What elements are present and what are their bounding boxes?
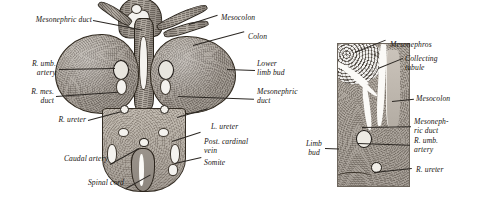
anatomical-plate: Mesonephric duct R. umb. artery R. mes. … (0, 0, 480, 203)
mesonephros-detail-panel (337, 43, 410, 187)
label-mesocolon: Mesocolon (221, 14, 255, 23)
label-lower-limb-bud: Lower limb bud (257, 60, 285, 77)
somite-right-lower (168, 164, 178, 176)
detail-r-umb-artery-lumen (356, 130, 372, 148)
label-colon: Colon (248, 33, 267, 42)
label-mesonephros: Mesonephros (390, 41, 432, 50)
label-mesonephric-duct-detail: Mesoneph- ric duct (414, 118, 449, 135)
label-r-umb-artery-detail: R. umb. artery (414, 137, 438, 154)
post-cardinal-vein-right (158, 128, 169, 137)
label-r-umb-artery: R. umb. artery (2, 60, 56, 77)
label-l-ureter: L. ureter (211, 123, 238, 132)
l-umb-artery-lumen (158, 60, 174, 80)
label-spinal-cord: Spinal cord (40, 179, 124, 188)
label-r-mes-duct: R. mes. duct (2, 88, 54, 105)
midline-lumen (139, 36, 148, 90)
l-ureter-lumen (160, 105, 169, 114)
r-ureter-lumen (120, 105, 129, 114)
dorsal-lumen-pale-2 (131, 4, 142, 14)
l-mes-duct-lumen (160, 79, 171, 95)
detail-ventral-contour (337, 172, 372, 182)
label-caudal-artery: Caudal artery (24, 155, 108, 164)
label-mesonephric-duct-left: Mesonephric duct (4, 16, 92, 25)
label-mesocolon-detail: Mesocolon (416, 95, 450, 104)
label-r-ureter-detail: R. ureter (416, 166, 444, 175)
label-collecting-tubule: Collecting tubule (405, 55, 438, 72)
label-somite: Somite (204, 159, 225, 168)
label-mesonephric-duct-right: Mesonephric duct (257, 88, 298, 105)
label-post-cardinal-vein: Post. cardinal vein (204, 138, 248, 155)
label-limb-bud: Limb bud (292, 140, 336, 157)
label-r-ureter: R. ureter (18, 116, 86, 125)
r-umb-artery-lumen (113, 60, 129, 80)
post-cardinal-vein-left (118, 128, 129, 137)
caudal-artery-lumen (139, 138, 149, 147)
